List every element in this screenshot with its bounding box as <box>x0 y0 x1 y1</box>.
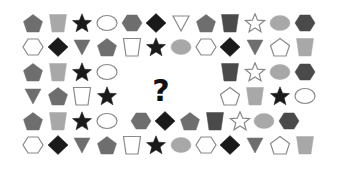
ellipse-outline-icon <box>96 111 118 131</box>
triangle-gray-icon <box>22 86 44 106</box>
diamond-black-icon <box>47 135 69 155</box>
hexagon-dark-icon <box>294 62 316 82</box>
pentagon-outline-icon <box>269 37 291 57</box>
pentagon-outline-icon <box>219 86 241 106</box>
pentagon-gray-icon <box>179 111 201 131</box>
hexagon-gray-icon <box>121 13 143 33</box>
pentagon-gray-icon <box>47 86 69 106</box>
trapezoid-light-icon <box>244 86 266 106</box>
diamond-black-icon <box>219 135 241 155</box>
star-black-icon <box>145 37 167 57</box>
diamond-black-icon <box>47 37 69 57</box>
ellipse-outline-icon <box>96 62 118 82</box>
hexagon-outline-icon <box>195 37 217 57</box>
trapezoid-dark-icon <box>219 13 241 33</box>
trapezoid-dark-icon <box>219 62 241 82</box>
triangle-gray-icon <box>244 37 266 57</box>
star-black-icon <box>269 86 291 106</box>
hexagon-outline-icon <box>22 37 44 57</box>
ellipse-outline-icon <box>96 13 118 33</box>
triangle-outline-icon <box>170 13 192 33</box>
hexagon-outline-icon <box>22 135 44 155</box>
diamond-black-icon <box>154 111 176 131</box>
hexagon-gray-icon <box>130 111 152 131</box>
trapezoid-light-icon <box>47 13 69 33</box>
trapezoid-light-icon <box>47 62 69 82</box>
star-outline-icon <box>244 13 266 33</box>
star-black-icon <box>96 86 118 106</box>
hexagon-dark-icon <box>278 111 300 131</box>
triangle-gray-icon <box>244 135 266 155</box>
star-black-icon <box>71 111 93 131</box>
pentagon-gray-icon <box>22 62 44 82</box>
pentagon-outline-icon <box>269 135 291 155</box>
diamond-black-icon <box>145 13 167 33</box>
pentagon-gray-icon <box>96 135 118 155</box>
star-black-icon <box>71 62 93 82</box>
missing-piece-question-mark: ? <box>146 71 176 111</box>
ellipse-light-icon <box>170 135 192 155</box>
star-black-icon <box>145 135 167 155</box>
trapezoid-light-icon <box>47 111 69 131</box>
ellipse-light-icon <box>170 37 192 57</box>
ellipse-light-icon <box>269 62 291 82</box>
pentagon-gray-icon <box>22 13 44 33</box>
triangle-gray-icon <box>71 135 93 155</box>
pentagon-gray-icon <box>22 111 44 131</box>
pentagon-gray-icon <box>96 37 118 57</box>
star-outline-icon <box>244 62 266 82</box>
trapezoid-outline-icon <box>121 135 143 155</box>
star-black-icon <box>71 13 93 33</box>
diamond-black-icon <box>219 37 241 57</box>
pentagon-gray-icon <box>195 13 217 33</box>
trapezoid-dark-icon <box>204 111 226 131</box>
star-outline-icon <box>229 111 251 131</box>
trapezoid-outline-icon <box>71 86 93 106</box>
ellipse-outline-icon <box>294 86 316 106</box>
hexagon-outline-icon <box>195 135 217 155</box>
trapezoid-light-icon <box>294 37 316 57</box>
hexagon-dark-icon <box>294 13 316 33</box>
trapezoid-light-icon <box>294 135 316 155</box>
ellipse-light-icon <box>253 111 275 131</box>
ellipse-light-icon <box>269 13 291 33</box>
trapezoid-outline-icon <box>121 37 143 57</box>
triangle-gray-icon <box>71 37 93 57</box>
